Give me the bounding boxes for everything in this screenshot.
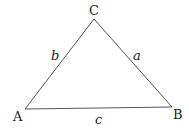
side-label-c: c xyxy=(95,112,103,127)
triangle-diagram: C A B b a c xyxy=(0,0,189,132)
vertex-label-a: A xyxy=(12,109,23,124)
side-label-b: b xyxy=(51,48,59,63)
side-label-a: a xyxy=(133,48,141,63)
vertex-label-c: C xyxy=(89,3,99,18)
triangle-abc xyxy=(25,19,172,109)
vertex-label-b: B xyxy=(173,107,183,122)
